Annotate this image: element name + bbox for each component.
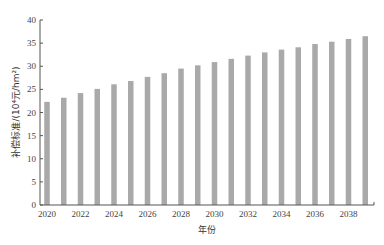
bar-chart: 0510152025303540 20202022202420262028203… [0,0,384,245]
x-axis-title: 年份 [198,224,216,235]
bar-2038 [346,39,352,205]
y-tick-label: 20 [27,108,37,118]
bars-group [44,36,368,205]
bar-2028 [178,69,184,205]
x-tick-label: 2026 [139,209,158,219]
bar-2022 [78,93,84,205]
y-tick-label: 0 [32,200,37,210]
x-tick-label: 2028 [172,209,191,219]
bar-2032 [245,56,251,205]
x-axis: 2020202220242026202820302032203420362038 [38,202,374,219]
y-tick-label: 10 [27,154,37,164]
x-tick-label: 2020 [38,209,57,219]
bar-2021 [61,98,67,205]
x-tick-label: 2030 [206,209,225,219]
y-tick-label: 15 [27,131,37,141]
x-tick-label: 2034 [273,209,292,219]
bar-2024 [111,84,117,205]
bar-2036 [312,44,318,205]
bar-2026 [145,77,151,205]
y-axis: 0510152025303540 [27,15,43,210]
bar-2035 [296,47,302,205]
x-tick-label: 2038 [340,209,359,219]
bar-2034 [279,50,285,205]
bar-2020 [44,102,50,205]
x-tick-label: 2036 [306,209,325,219]
bar-2033 [262,52,268,205]
bar-2025 [128,81,134,205]
y-tick-label: 35 [27,38,37,48]
bar-2031 [229,59,235,205]
bar-2037 [329,42,335,205]
y-tick-label: 30 [27,61,37,71]
bar-2029 [195,65,201,205]
y-axis-title: 补偿标准/(10⁴元/hm²) [10,66,21,157]
y-tick-label: 25 [27,84,37,94]
x-tick-label: 2024 [105,209,124,219]
bar-2030 [212,62,218,205]
x-tick-label: 2022 [72,209,90,219]
bar-2027 [162,73,168,205]
x-tick-label: 2032 [239,209,257,219]
bar-2039 [363,36,369,205]
bar-2023 [95,89,101,205]
y-tick-label: 5 [32,177,37,187]
y-tick-label: 40 [27,15,37,25]
